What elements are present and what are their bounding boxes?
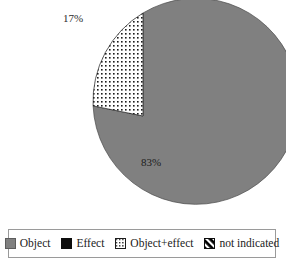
legend-item-object[interactable]: Object (5, 238, 51, 250)
legend-items-row: Object Effect Object+effect not i (5, 238, 279, 250)
pie-label-object: 83% (141, 157, 161, 168)
legend-item-object-effect[interactable]: Object+effect (115, 238, 193, 250)
pie-slice-object-effect (93, 13, 143, 116)
chart-legend: Object Effect Object+effect not i (8, 229, 276, 258)
pie-chart-svg (0, 0, 286, 224)
solid-black-swatch-icon (61, 238, 72, 249)
legend-label-not-indicated: not indicated (219, 238, 279, 250)
solid-gray-swatch-icon (5, 238, 16, 249)
legend-item-not-indicated[interactable]: not indicated (204, 238, 279, 250)
legend-label-object-effect: Object+effect (130, 238, 193, 250)
legend-item-effect[interactable]: Effect (61, 238, 104, 250)
pie-label-object-effect: 17% (63, 13, 83, 24)
pie-chart-plot-area: 17% 83% (0, 0, 286, 224)
dotted-swatch-icon (115, 238, 126, 249)
legend-label-object: Object (20, 238, 51, 250)
legend-label-effect: Effect (76, 238, 104, 250)
pie-chart-figure: 17% 83% Object Effect O (0, 0, 286, 274)
diagonal-stripes-swatch-icon (204, 238, 215, 249)
